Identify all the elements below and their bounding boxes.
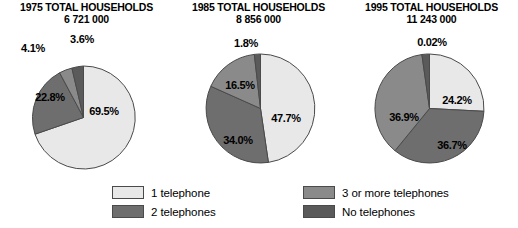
legend-label-1-telephone: 1 telephone <box>151 187 210 199</box>
legend-label-2-telephones: 2 telephones <box>151 206 216 218</box>
pie-panel-1995: 1995 TOTAL HOUSEHOLDS 11 243 000 24.2% 3… <box>345 0 518 180</box>
slice-label-1995-two-telephones: 36.7% <box>437 139 467 151</box>
legend-item-1-telephone: 1 telephone <box>112 183 216 202</box>
legend-label-3-or-more-telephones: 3 or more telephones <box>342 187 449 199</box>
slice-label-1985-no-telephones: 1.8% <box>234 37 258 49</box>
legend-label-no-telephones: No telephones <box>342 206 415 218</box>
slice-label-1975-one-telephone: 69.5% <box>89 105 119 117</box>
slice-label-1985-one-telephone: 47.7% <box>271 112 301 124</box>
legend-item-2-telephones: 2 telephones <box>112 202 216 221</box>
slice-label-1985-two-telephones: 34.0% <box>223 134 253 146</box>
slice-label-1995-three-or-more: 36.9% <box>389 111 419 123</box>
slice-label-1975-three-or-more: 4.1% <box>21 42 45 54</box>
slice-label-1995-one-telephone: 24.2% <box>442 94 472 106</box>
pie-chart-1975 <box>31 65 136 170</box>
legend: 1 telephone 2 telephones 3 or more telep… <box>0 183 518 228</box>
legend-item-no-telephones: No telephones <box>303 202 449 221</box>
pie-wrap-1975: 69.5% 22.8% 4.1% 3.6% <box>0 0 173 180</box>
pie-chart-1995 <box>374 53 485 164</box>
slice-label-1975-two-telephones: 22.8% <box>35 91 65 103</box>
legend-swatch-no-telephones <box>303 205 335 218</box>
legend-item-3-or-more-telephones: 3 or more telephones <box>303 183 449 202</box>
telephone-households-pie-figure: { "figure": { "series_names": ["1 teleph… <box>0 0 518 228</box>
legend-column-right: 3 or more telephones No telephones <box>303 183 449 221</box>
pie-panel-1975: 1975 TOTAL HOUSEHOLDS 6 721 000 69.5% 22… <box>0 0 173 180</box>
slice-label-1995-no-telephones: 0.02% <box>417 36 447 48</box>
legend-column-left: 1 telephone 2 telephones <box>112 183 216 221</box>
legend-swatch-1-telephone <box>112 186 144 199</box>
pie-wrap-1995: 24.2% 36.7% 36.9% 0.02% <box>345 0 518 180</box>
slice-1985-one-telephone <box>261 54 315 162</box>
legend-swatch-2-telephones <box>112 205 144 218</box>
legend-swatch-3-or-more-telephones <box>303 186 335 199</box>
pie-chart-1985 <box>205 53 316 164</box>
slice-label-1975-no-telephones: 3.6% <box>70 33 94 45</box>
pie-panel-1985: 1985 TOTAL HOUSEHOLDS 8 856 000 47.7% 34… <box>172 0 345 180</box>
pie-wrap-1985: 47.7% 34.0% 16.5% 1.8% <box>172 0 345 180</box>
slice-label-1985-three-or-more: 16.5% <box>225 79 255 91</box>
